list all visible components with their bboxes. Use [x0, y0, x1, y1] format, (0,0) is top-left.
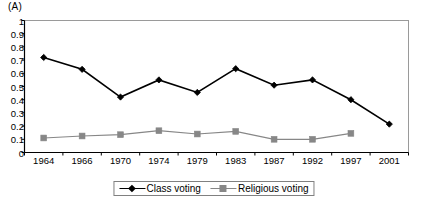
x-axis-label: 1987 [254, 155, 294, 166]
x-axis-label: 1964 [24, 155, 64, 166]
legend-label-religious-voting: Religious voting [238, 184, 309, 194]
x-axis-label: 1974 [139, 155, 179, 166]
line-chart-svg [0, 14, 428, 160]
figure-panel-a: (A) 00.10.20.30.40.50.60.70.80.91 196419… [0, 0, 428, 207]
x-axis-label: 1979 [177, 155, 217, 166]
panel-label: (A) [8, 1, 22, 12]
x-axis-label: 1966 [62, 155, 102, 166]
x-axis-label: 2001 [369, 155, 409, 166]
data-point-religious-voting-6 [271, 136, 277, 142]
legend-label-class-voting: Class voting [146, 184, 200, 194]
chart-legend: Class voting Religious voting [113, 181, 314, 196]
x-axis-tick-labels: 1964196619701974197919831987199219972001 [0, 153, 428, 169]
data-point-religious-voting-3 [156, 128, 162, 134]
data-point-religious-voting-5 [233, 128, 239, 134]
data-point-religious-voting-2 [118, 132, 124, 138]
data-point-religious-voting-4 [194, 131, 200, 137]
data-point-religious-voting-0 [41, 135, 47, 141]
x-axis-label: 1983 [216, 155, 256, 166]
x-axis-label: 1997 [331, 155, 371, 166]
legend-item-class-voting: Class voting [119, 184, 200, 194]
chart-plot-area [0, 14, 428, 160]
x-axis-label: 1970 [101, 155, 141, 166]
data-point-religious-voting-7 [310, 136, 316, 142]
x-axis-label: 1992 [293, 155, 333, 166]
legend-marker-square-icon [211, 184, 237, 194]
legend-item-religious-voting: Religious voting [211, 184, 309, 194]
data-point-religious-voting-1 [79, 133, 85, 139]
data-point-religious-voting-8 [348, 130, 354, 136]
legend-marker-diamond-icon [119, 184, 145, 194]
